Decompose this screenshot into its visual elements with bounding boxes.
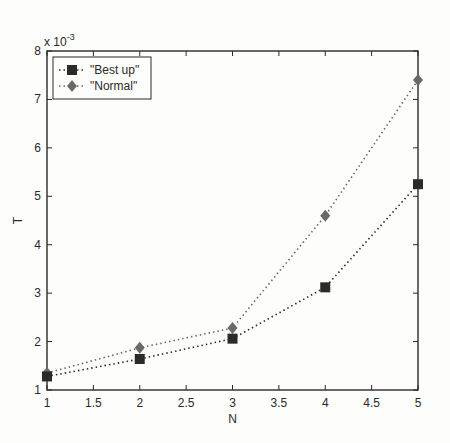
svg-text:"Best up": "Best up" <box>90 63 139 77</box>
y-tick-label: 2 <box>34 335 41 349</box>
plot-series <box>42 74 423 381</box>
line-chart: 11.522.533.544.5512345678NTx 10-3 "Best … <box>0 0 450 443</box>
y-tick-label: 7 <box>34 92 41 106</box>
y-tick-label: 6 <box>34 141 41 155</box>
y-tick-label: 4 <box>34 238 41 252</box>
x-tick-label: 3.5 <box>271 396 288 410</box>
y-axis-label: T <box>11 216 25 224</box>
y-tick-label: 8 <box>34 44 41 58</box>
y-tick-label: 1 <box>34 383 41 397</box>
x-tick-label: 1 <box>44 396 51 410</box>
x-tick-label: 2 <box>136 396 143 410</box>
svg-text:"Normal": "Normal" <box>90 79 137 93</box>
legend: "Best up""Normal" <box>53 57 151 99</box>
x-axis-label: N <box>228 412 237 426</box>
x-tick-label: 4.5 <box>363 396 380 410</box>
series-diamond <box>42 74 423 379</box>
y-exponent-label: x 10-3 <box>44 32 75 49</box>
y-tick-label: 5 <box>34 189 41 203</box>
y-tick-label: 3 <box>34 286 41 300</box>
x-tick-label: 2.5 <box>178 396 195 410</box>
x-tick-label: 5 <box>415 396 422 410</box>
x-tick-label: 3 <box>229 396 236 410</box>
legend-item: "Best up" <box>59 63 139 77</box>
series-square <box>42 179 423 381</box>
x-tick-label: 1.5 <box>85 396 102 410</box>
x-tick-label: 4 <box>322 396 329 410</box>
